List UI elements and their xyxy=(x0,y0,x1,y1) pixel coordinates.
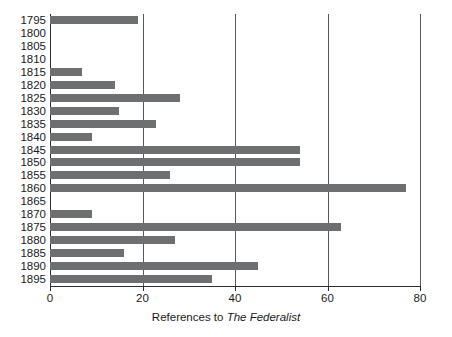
bar-row: 1795 xyxy=(50,14,420,27)
bar-1860 xyxy=(50,184,406,192)
x-tick-label-80: 80 xyxy=(414,292,427,305)
y-tick-label-1865: 1865 xyxy=(4,195,46,208)
y-tick-label-1820: 1820 xyxy=(4,79,46,92)
bar-row: 1885 xyxy=(50,247,420,260)
tick-mark-80 xyxy=(420,286,421,291)
bar-row: 1855 xyxy=(50,169,420,182)
bar-row: 1825 xyxy=(50,92,420,105)
bar-row: 1830 xyxy=(50,105,420,118)
x-axis-title-italic: The Federalist xyxy=(227,311,301,323)
bar-1845 xyxy=(50,146,300,154)
y-tick-label-1815: 1815 xyxy=(4,66,46,79)
bar-1890 xyxy=(50,262,258,270)
y-tick-label-1875: 1875 xyxy=(4,221,46,234)
x-axis-title: References to The Federalist xyxy=(0,311,452,323)
bar-1830 xyxy=(50,107,119,115)
y-tick-label-1850: 1850 xyxy=(4,156,46,169)
bar-row: 1880 xyxy=(50,234,420,247)
y-tick-label-1870: 1870 xyxy=(4,208,46,221)
plot-area: 1795180018051810181518201825183018351840… xyxy=(50,14,420,286)
x-axis-title-prefix: References to xyxy=(152,311,227,323)
bar-row: 1840 xyxy=(50,131,420,144)
bar-1815 xyxy=(50,68,82,76)
bar-1850 xyxy=(50,158,300,166)
bar-1880 xyxy=(50,236,175,244)
bar-1795 xyxy=(50,16,138,24)
bar-row: 1820 xyxy=(50,79,420,92)
tick-mark-0 xyxy=(50,286,51,291)
bar-row: 1800 xyxy=(50,27,420,40)
x-tick-label-60: 60 xyxy=(321,292,334,305)
y-tick-label-1795: 1795 xyxy=(4,14,46,27)
bar-row: 1835 xyxy=(50,118,420,131)
bar-1895 xyxy=(50,275,212,283)
tick-mark-20 xyxy=(143,286,144,291)
bar-row: 1865 xyxy=(50,195,420,208)
bar-row: 1845 xyxy=(50,144,420,157)
y-tick-label-1880: 1880 xyxy=(4,234,46,247)
bar-1820 xyxy=(50,81,115,89)
y-tick-label-1845: 1845 xyxy=(4,144,46,157)
bar-row: 1895 xyxy=(50,273,420,286)
y-tick-label-1885: 1885 xyxy=(4,247,46,260)
bar-row: 1805 xyxy=(50,40,420,53)
tick-mark-60 xyxy=(328,286,329,291)
gridline-80 xyxy=(420,14,421,286)
bar-row: 1875 xyxy=(50,221,420,234)
bar-row: 1890 xyxy=(50,260,420,273)
bar-1840 xyxy=(50,133,92,141)
y-tick-label-1860: 1860 xyxy=(4,182,46,195)
y-tick-label-1895: 1895 xyxy=(4,273,46,286)
tick-mark-40 xyxy=(235,286,236,291)
x-tick-label-0: 0 xyxy=(47,292,53,305)
bar-row: 1860 xyxy=(50,182,420,195)
bar-chart: 020406080 179518001805181018151820182518… xyxy=(0,0,452,337)
y-tick-label-1825: 1825 xyxy=(4,92,46,105)
bar-row: 1815 xyxy=(50,66,420,79)
bar-1870 xyxy=(50,210,92,218)
x-tick-label-40: 40 xyxy=(229,292,242,305)
y-tick-label-1805: 1805 xyxy=(4,40,46,53)
bar-1855 xyxy=(50,171,170,179)
y-tick-label-1800: 1800 xyxy=(4,27,46,40)
y-tick-label-1890: 1890 xyxy=(4,260,46,273)
bar-1875 xyxy=(50,223,341,231)
y-tick-label-1855: 1855 xyxy=(4,169,46,182)
bar-row: 1870 xyxy=(50,208,420,221)
bar-1825 xyxy=(50,94,180,102)
bar-1885 xyxy=(50,249,124,257)
bar-row: 1810 xyxy=(50,53,420,66)
y-tick-label-1835: 1835 xyxy=(4,118,46,131)
y-tick-label-1810: 1810 xyxy=(4,53,46,66)
bar-row: 1850 xyxy=(50,156,420,169)
y-tick-label-1830: 1830 xyxy=(4,105,46,118)
y-tick-label-1840: 1840 xyxy=(4,131,46,144)
bar-1835 xyxy=(50,120,156,128)
x-tick-label-20: 20 xyxy=(136,292,149,305)
